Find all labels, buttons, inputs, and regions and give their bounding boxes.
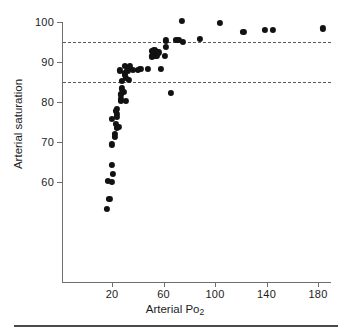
data-point <box>240 29 246 35</box>
data-point <box>145 66 151 72</box>
data-point <box>163 37 169 43</box>
data-point <box>110 171 116 177</box>
x-axis-tick-140 <box>267 282 268 287</box>
x-axis-tick-label-100: 100 <box>206 288 225 300</box>
x-axis-title-subscript: 2 <box>199 307 204 317</box>
x-axis-tick-label-140: 140 <box>257 288 276 300</box>
x-axis-tick-20 <box>112 282 113 287</box>
y-axis-tick-label-70: 70 <box>41 136 54 148</box>
data-point <box>168 90 174 96</box>
data-point <box>137 66 143 72</box>
y-axis-tick-label-80: 80 <box>41 96 54 108</box>
data-point <box>178 18 184 24</box>
plot-area <box>62 22 331 282</box>
x-axis-tick-100 <box>215 282 216 287</box>
x-axis-tick-label-20: 20 <box>106 288 119 300</box>
y-axis-tick-label-100: 100 <box>35 16 54 28</box>
data-point <box>162 53 168 59</box>
x-axis-title-base: Arterial Po <box>146 303 200 315</box>
x-axis-title: Arterial Po2 <box>0 303 350 315</box>
data-point <box>196 36 202 42</box>
data-point <box>217 20 223 26</box>
data-point <box>104 206 110 212</box>
data-point <box>262 27 268 33</box>
data-point <box>320 25 326 31</box>
data-point <box>123 98 129 104</box>
data-point <box>109 141 115 147</box>
y-axis-tick-label-60: 60 <box>41 176 54 188</box>
y-axis-tick-label-90: 90 <box>41 56 54 68</box>
bottom-divider-rule <box>14 325 338 327</box>
data-point <box>109 162 115 168</box>
scatter-plot-figure: Arterial saturation 60708090100206010014… <box>0 0 350 334</box>
x-axis-tick-label-180: 180 <box>309 288 328 300</box>
data-point <box>158 66 164 72</box>
data-point <box>163 44 169 50</box>
data-point <box>106 196 112 202</box>
x-axis-tick-60 <box>164 282 165 287</box>
y-axis-title: Arterial saturation <box>12 44 24 204</box>
x-axis-tick-180 <box>318 282 319 287</box>
data-point <box>109 179 115 185</box>
data-point <box>180 39 186 45</box>
data-point <box>270 27 276 33</box>
x-axis-tick-label-60: 60 <box>157 288 170 300</box>
